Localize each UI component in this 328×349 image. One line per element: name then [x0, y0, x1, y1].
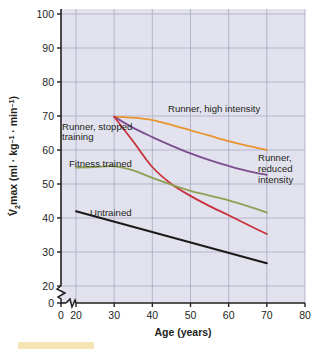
y-tick-label-70: 70: [42, 110, 54, 122]
y-tick-label-50: 50: [42, 178, 54, 190]
x-tick-label-50: 50: [185, 309, 197, 321]
y-axis-title-dot: V: [7, 209, 19, 216]
annotation-runner-high-intensity: Runner, high intensity: [168, 103, 260, 114]
footer-color-strip: [18, 342, 94, 349]
y-tick-label-30: 30: [42, 246, 54, 258]
y-tick-label-90: 90: [42, 42, 54, 54]
figure-container: 02030405060708090100 020304050607080 Age…: [0, 0, 328, 349]
annotation-runner-reduced-line2: reduced: [258, 163, 293, 174]
annotation-runner-stopped-line2: training: [62, 131, 93, 142]
x-tick-label-0: 0: [58, 309, 64, 321]
y-tick-label-80: 80: [42, 76, 54, 88]
annotation-runner-reduced-line3: intensity: [258, 174, 293, 185]
annotation-untrained: Untrained: [90, 207, 132, 218]
x-tick-label-20: 20: [70, 309, 82, 321]
annotation-runner-reduced-line1: Runner,: [258, 152, 292, 163]
y-axis-title-sup1: –1: [7, 136, 16, 144]
y-tick-label-60: 60: [42, 144, 54, 156]
x-tick-label-40: 40: [146, 309, 158, 321]
x-tick-label-60: 60: [223, 309, 235, 321]
x-tick-label-30: 30: [108, 309, 120, 321]
x-axis-title: Age (years): [154, 326, 211, 338]
annotation-fitness-trained: Fitness trained: [69, 158, 132, 169]
y-tick-label-100: 100: [36, 8, 54, 20]
y-axis-title-sup2: –1: [7, 100, 16, 108]
x-tick-label-80: 80: [299, 309, 311, 321]
y-tick-label-0: 0: [48, 297, 54, 309]
vo2max-vs-age-line-chart: 02030405060708090100 020304050607080 Age…: [0, 0, 328, 349]
v-dot-icon: [8, 213, 10, 215]
x-tick-label-70: 70: [261, 309, 273, 321]
y-tick-label-40: 40: [42, 212, 54, 224]
y-tick-label-20: 20: [42, 280, 54, 292]
